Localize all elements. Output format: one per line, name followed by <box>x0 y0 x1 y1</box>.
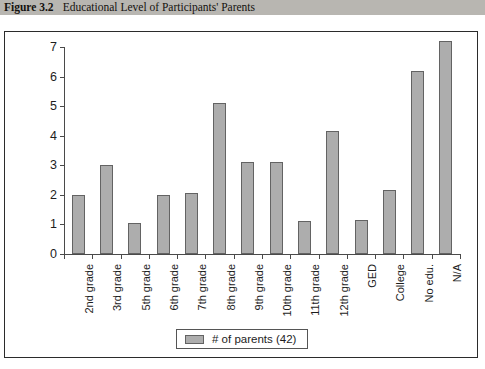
bar-college <box>383 190 396 254</box>
x-tick-6 <box>234 254 235 259</box>
bar-5th-grade <box>128 223 141 254</box>
x-tick-0 <box>64 254 65 259</box>
x-tick-2 <box>121 254 122 259</box>
chart-legend: # of parents (42) <box>176 329 308 349</box>
x-tick-7 <box>262 254 263 259</box>
bar-10th-grade <box>270 162 283 254</box>
bar-no-edu <box>411 71 424 254</box>
x-label-9th-grade: 9th grade <box>253 264 265 310</box>
figure-caption: Figure 3.2Educational Level of Participa… <box>4 0 255 15</box>
x-tick-4 <box>177 254 178 259</box>
x-tick-14 <box>460 254 461 259</box>
y-tick-4 <box>60 136 65 137</box>
y-tick-2 <box>60 195 65 196</box>
y-tick-label-1: 1 <box>31 217 57 231</box>
legend-label-parents: # of parents (42) <box>212 333 296 345</box>
y-tick-5 <box>60 106 65 107</box>
y-tick-1 <box>60 224 65 225</box>
x-tick-12 <box>403 254 404 259</box>
x-label-8th-grade: 8th grade <box>225 264 237 310</box>
bar-8th-grade <box>213 103 226 254</box>
y-tick-3 <box>60 165 65 166</box>
figure-number: Figure 3.2 <box>4 1 54 13</box>
legend-swatch-parents <box>185 335 204 344</box>
x-tick-13 <box>432 254 433 259</box>
y-tick-label-6: 6 <box>31 70 57 84</box>
figure-title: Educational Level of Participants' Paren… <box>63 1 255 13</box>
x-label-5th-grade: 5th grade <box>140 264 152 310</box>
x-label-no-edu: No edu. <box>423 264 435 303</box>
x-label-12th-grade: 12th grade <box>338 264 350 317</box>
x-tick-10 <box>347 254 348 259</box>
x-label-3rd-grade: 3rd grade <box>111 264 123 311</box>
bar-7th-grade <box>185 193 198 254</box>
x-tick-11 <box>375 254 376 259</box>
y-tick-label-5: 5 <box>31 99 57 113</box>
x-label-6th-grade: 6th grade <box>168 264 180 310</box>
x-label-ged: GED <box>366 264 378 288</box>
x-tick-3 <box>149 254 150 259</box>
chart-frame: 01234567 2nd grade3rd grade5th grade6th … <box>4 31 478 358</box>
x-tick-1 <box>92 254 93 259</box>
y-tick-label-7: 7 <box>31 40 57 54</box>
x-label-10th-grade: 10th grade <box>281 264 293 317</box>
y-tick-label-2: 2 <box>31 188 57 202</box>
bar-ged <box>355 220 368 254</box>
x-tick-9 <box>319 254 320 259</box>
bar-n-a <box>439 41 452 254</box>
y-tick-6 <box>60 77 65 78</box>
y-tick-label-0: 0 <box>31 247 57 261</box>
bar-6th-grade <box>157 195 170 254</box>
x-tick-5 <box>205 254 206 259</box>
x-label-7th-grade: 7th grade <box>196 264 208 310</box>
x-label-college: College <box>394 264 406 301</box>
bar-12th-grade <box>326 131 339 254</box>
y-tick-7 <box>60 47 65 48</box>
bar-chart-plot: 01234567 2nd grade3rd grade5th grade6th … <box>5 32 477 357</box>
bar-11th-grade <box>298 221 311 254</box>
bar-3rd-grade <box>100 165 113 254</box>
bar-9th-grade <box>241 162 254 254</box>
y-tick-label-4: 4 <box>31 129 57 143</box>
x-tick-8 <box>290 254 291 259</box>
y-tick-label-3: 3 <box>31 158 57 172</box>
x-label-n-a: N/A <box>451 264 463 282</box>
x-label-2nd-grade: 2nd grade <box>83 264 95 314</box>
x-label-11th-grade: 11th grade <box>309 264 321 316</box>
bar-2nd-grade <box>72 195 85 254</box>
